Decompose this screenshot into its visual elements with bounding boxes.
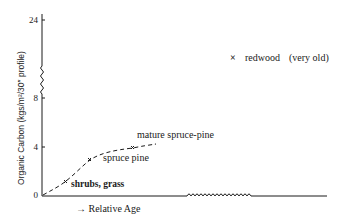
- y-axis-label: Organic Carbon (kgs/m²/30″ profile): [16, 51, 26, 185]
- marker-mature-spruce-pine: [131, 146, 134, 149]
- y-axis-break-squiggle: [41, 66, 44, 94]
- label-redwood: redwood: [245, 52, 280, 63]
- label-shrubs-grass: shrubs, grass: [71, 179, 125, 189]
- y-tick-24: 24: [29, 15, 39, 25]
- chart: 24 8 4 0 Organic Carbon (kgs/m²/30″ prof…: [0, 0, 342, 222]
- label-mature-spruce-pine: mature spruce-pine: [137, 129, 214, 140]
- y-axis: [41, 14, 46, 196]
- y-tick-0: 0: [34, 190, 39, 200]
- x-axis-label: → Relative Age: [76, 203, 141, 214]
- label-very-old: (very old): [289, 52, 329, 64]
- marker-shrubs: [64, 180, 67, 183]
- y-tick-8: 8: [34, 93, 39, 103]
- x-axis: [42, 194, 327, 196]
- y-tick-4: 4: [34, 142, 39, 152]
- label-spruce-pine: spruce pine: [103, 152, 149, 163]
- x-axis-break-squiggle: [187, 194, 251, 196]
- marker-redwood: ×: [230, 52, 236, 63]
